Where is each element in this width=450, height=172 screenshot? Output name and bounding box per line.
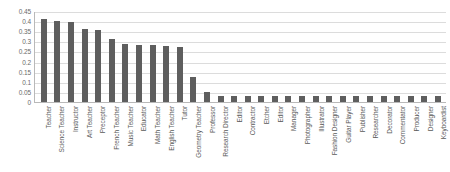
bar-series bbox=[36, 12, 446, 102]
y-axis-tick-label: 0.3 bbox=[22, 39, 31, 46]
x-axis-label-slot: Commentator bbox=[391, 104, 405, 172]
bar-slot bbox=[309, 12, 323, 102]
y-axis-tick-label: 0.45 bbox=[19, 9, 31, 16]
x-axis-label-slot: Keyboardist bbox=[432, 104, 446, 172]
bar bbox=[394, 96, 400, 102]
bar-slot bbox=[64, 12, 78, 102]
bar bbox=[435, 96, 441, 102]
x-axis-label-slot: French Teacher bbox=[104, 104, 118, 172]
bar bbox=[150, 45, 156, 102]
bar-slot bbox=[227, 12, 241, 102]
bar bbox=[258, 96, 264, 102]
bar-slot bbox=[431, 12, 445, 102]
bar bbox=[299, 96, 305, 102]
plot-area bbox=[34, 12, 446, 103]
bar-slot bbox=[132, 12, 146, 102]
bar bbox=[231, 96, 237, 102]
bar bbox=[109, 39, 115, 102]
bar bbox=[163, 46, 169, 102]
bar bbox=[68, 22, 74, 102]
y-axis-tick-label: 0.15 bbox=[19, 69, 31, 76]
x-axis-label-slot: Researcher bbox=[363, 104, 377, 172]
x-axis-label-slot: Editor bbox=[227, 104, 241, 172]
bar-slot bbox=[282, 12, 296, 102]
x-axis-label-slot: Tutor bbox=[172, 104, 186, 172]
y-axis-tick-label: 0.1 bbox=[22, 80, 31, 87]
x-axis-label-slot: Educator bbox=[131, 104, 145, 172]
bar bbox=[367, 96, 373, 102]
bar-slot bbox=[119, 12, 133, 102]
x-axis-label-slot: English Teacher bbox=[159, 104, 173, 172]
bar-slot bbox=[187, 12, 201, 102]
bar-slot bbox=[91, 12, 105, 102]
x-axis-label-slot: Illustrator bbox=[309, 104, 323, 172]
bar-slot bbox=[78, 12, 92, 102]
x-axis-label-slot: Editor bbox=[268, 104, 282, 172]
bar bbox=[245, 96, 251, 102]
bar bbox=[218, 96, 224, 102]
bar bbox=[353, 96, 359, 102]
bar-slot bbox=[159, 12, 173, 102]
x-axis-tick-label: Keyboardist bbox=[442, 106, 449, 139]
y-axis: 00.050.10.150.20.250.30.350.40.45 bbox=[0, 12, 31, 103]
x-axis-label-slot: Photographer bbox=[295, 104, 309, 172]
bar bbox=[95, 30, 101, 102]
y-axis-tick-label: 0.35 bbox=[19, 29, 31, 36]
bar bbox=[313, 96, 319, 102]
bar bbox=[340, 96, 346, 102]
x-axis-label-slot: Professor bbox=[200, 104, 214, 172]
x-axis-label-slot: Instructor bbox=[63, 104, 77, 172]
bar-slot bbox=[105, 12, 119, 102]
bar bbox=[272, 96, 278, 102]
bar-slot bbox=[377, 12, 391, 102]
bar bbox=[204, 92, 210, 102]
bar-slot bbox=[390, 12, 404, 102]
y-axis-tick-label: 0 bbox=[27, 100, 31, 107]
bar-slot bbox=[404, 12, 418, 102]
x-axis-label-slot: Publisher bbox=[350, 104, 364, 172]
x-axis-label-slot: Science Teacher bbox=[50, 104, 64, 172]
bar bbox=[381, 96, 387, 102]
bar-slot bbox=[418, 12, 432, 102]
x-axis-label-slot: Manager bbox=[282, 104, 296, 172]
bar-chart: 00.050.10.150.20.250.30.350.40.45 Teache… bbox=[0, 0, 450, 172]
y-axis-tick-label: 0.05 bbox=[19, 90, 31, 97]
bar bbox=[122, 44, 128, 102]
x-axis-label-slot: Producer bbox=[404, 104, 418, 172]
x-axis-label-slot: Research Director bbox=[213, 104, 227, 172]
bar-slot bbox=[295, 12, 309, 102]
x-axis-label-slot: Fashion Designer bbox=[322, 104, 336, 172]
y-axis-tick-label: 0.2 bbox=[22, 59, 31, 66]
bar-slot bbox=[37, 12, 51, 102]
bar bbox=[285, 96, 291, 102]
x-axis-label-slot: Music Teacher bbox=[118, 104, 132, 172]
bar bbox=[408, 96, 414, 102]
bar bbox=[326, 96, 332, 102]
bar-slot bbox=[268, 12, 282, 102]
x-axis-label-slot: Geometry Teacher bbox=[186, 104, 200, 172]
bar bbox=[54, 21, 60, 102]
bar-slot bbox=[255, 12, 269, 102]
bar-slot bbox=[51, 12, 65, 102]
x-axis-label-slot: Decorator bbox=[377, 104, 391, 172]
bar bbox=[421, 96, 427, 102]
bar-slot bbox=[214, 12, 228, 102]
bar bbox=[82, 29, 88, 102]
bar-slot bbox=[173, 12, 187, 102]
y-axis-tick-label: 0.4 bbox=[22, 19, 31, 26]
bar bbox=[177, 47, 183, 102]
bar bbox=[41, 19, 47, 102]
y-axis-tick-label: 0.25 bbox=[19, 49, 31, 56]
x-axis-label-slot: Preceptor bbox=[91, 104, 105, 172]
bar bbox=[136, 45, 142, 102]
bar-slot bbox=[200, 12, 214, 102]
bar-slot bbox=[363, 12, 377, 102]
x-axis-label-slot: Designer bbox=[418, 104, 432, 172]
x-axis-labels: TeacherScience TeacherInstructorArt Teac… bbox=[35, 104, 446, 172]
bar-slot bbox=[146, 12, 160, 102]
bar-slot bbox=[350, 12, 364, 102]
x-axis-label-slot: Teacher bbox=[36, 104, 50, 172]
bar-slot bbox=[322, 12, 336, 102]
x-axis-label-slot: Math Teacher bbox=[145, 104, 159, 172]
bar-slot bbox=[336, 12, 350, 102]
